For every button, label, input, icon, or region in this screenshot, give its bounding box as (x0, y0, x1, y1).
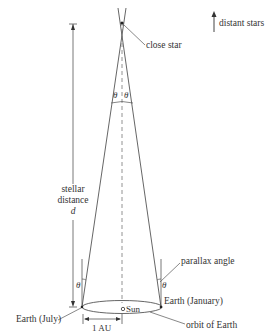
close-star-label: close star (146, 41, 182, 51)
parallax-arc-left (82, 279, 86, 280)
distance-dimension (69, 24, 77, 307)
earth-january-label: Earth (January) (164, 297, 223, 307)
orbit-leader (150, 312, 185, 324)
theta-top-right-label: θ (124, 91, 128, 100)
earth-july-leader (58, 308, 81, 320)
theta-right-label: θ (162, 281, 166, 290)
distant-stars-label: distant stars (219, 19, 264, 29)
sight-lines (82, 8, 161, 307)
theta-top-left-label: θ (113, 91, 117, 100)
distance-variable-label: d (53, 207, 93, 217)
sun-label: Sun (126, 305, 140, 314)
theta-left-label: θ (76, 281, 80, 290)
earth-july-label: Earth (July) (16, 315, 61, 325)
earth-july-icon (81, 306, 84, 309)
distant-star-reference-lines (82, 259, 161, 307)
close-star-icon (120, 21, 123, 24)
stellar-label: stellar (53, 185, 93, 195)
earth-january-icon (160, 306, 163, 309)
close-star-leader (124, 25, 145, 45)
parallax-arc-right (157, 279, 161, 280)
distant-stars-arrow (212, 11, 217, 32)
parallax-angle-label: parallax angle (181, 257, 235, 267)
sun-icon (121, 307, 124, 310)
orbit-of-earth-label: orbit of Earth (186, 321, 237, 331)
distance-label: distance (53, 196, 93, 206)
parallax-diagram (0, 0, 271, 336)
one-au-label: 1 AU (92, 324, 111, 333)
